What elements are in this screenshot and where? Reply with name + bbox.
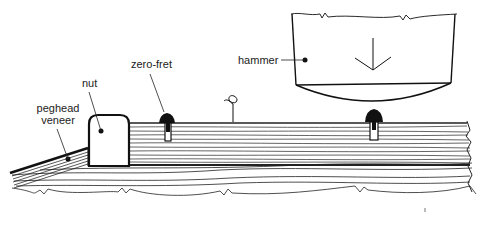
label-peghead-veneer-line1: peghead bbox=[34, 102, 82, 114]
hammer bbox=[291, 13, 457, 101]
string-end-icon bbox=[224, 96, 237, 122]
peghead-veneer bbox=[10, 148, 88, 188]
label-peghead-veneer-line2: veneer bbox=[34, 114, 82, 126]
label-peghead-veneer: peghead veneer bbox=[34, 102, 82, 126]
nut bbox=[89, 115, 129, 166]
label-nut: nut bbox=[82, 77, 97, 89]
fingerboard bbox=[130, 121, 472, 192]
label-zero-fret: zero-fret bbox=[131, 58, 172, 70]
label-hammer: hammer bbox=[238, 54, 278, 66]
neck-body bbox=[12, 163, 476, 195]
